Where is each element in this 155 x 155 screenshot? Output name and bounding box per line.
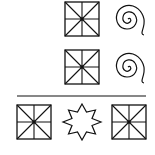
- row-3: [17, 104, 146, 140]
- square-figure-icon: [65, 50, 99, 84]
- square-figure-icon: [65, 2, 99, 36]
- square-figure-icon: [112, 105, 146, 139]
- eight-point-star-icon: [63, 104, 101, 140]
- square-figure-icon: [17, 105, 51, 139]
- spiral-figure-icon: [116, 53, 144, 83]
- row-1: [65, 2, 144, 36]
- puzzle-diagram: [0, 0, 155, 155]
- row-2: [65, 50, 144, 84]
- spiral-figure-icon: [116, 5, 144, 35]
